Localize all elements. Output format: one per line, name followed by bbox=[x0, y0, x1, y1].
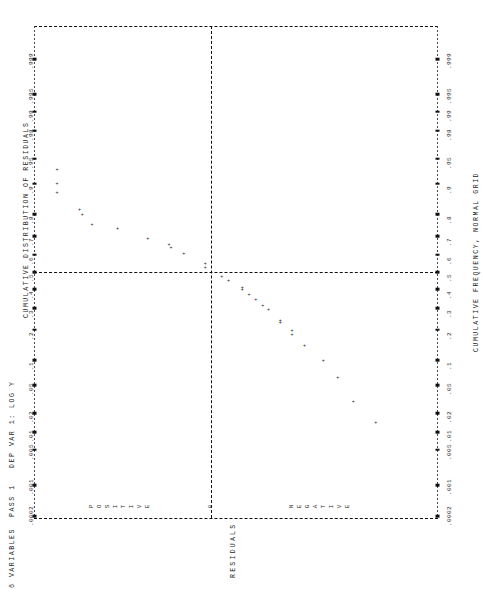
prob-tick-label-left: .3 bbox=[28, 310, 35, 318]
prob-tick-label-right: .5 bbox=[446, 274, 453, 282]
axis-label-letter: S bbox=[104, 503, 111, 510]
zero-residual-reference-line bbox=[211, 26, 212, 518]
axis-label-letter: V bbox=[136, 503, 143, 510]
axis-label-letter: E bbox=[144, 503, 151, 510]
prob-tick-label-left: .02 bbox=[28, 411, 35, 423]
prob-tick-label-right: .999 bbox=[446, 53, 453, 69]
data-point bbox=[33, 129, 36, 132]
prob-tick-label-left: .5 bbox=[28, 274, 35, 282]
prob-tick-right bbox=[436, 412, 440, 415]
axis-label-letter: I bbox=[128, 503, 135, 510]
prob-tick-label-left: .01 bbox=[28, 430, 35, 442]
data-point bbox=[352, 400, 355, 403]
prob-tick-right bbox=[436, 271, 440, 274]
prob-tick-label-left: .0002 bbox=[28, 506, 35, 526]
prob-tick-right bbox=[436, 307, 440, 310]
prob-tick-label-left: .999 bbox=[28, 53, 35, 69]
prob-tick-right bbox=[436, 253, 440, 256]
prob-tick-label-right: .01 bbox=[446, 430, 453, 442]
data-point bbox=[146, 238, 149, 241]
prob-tick-label-right: .3 bbox=[446, 310, 453, 318]
axis-label-letter: A bbox=[312, 503, 319, 510]
data-point bbox=[91, 223, 94, 226]
prob-tick-label-left: .05 bbox=[28, 383, 35, 395]
data-point bbox=[220, 276, 223, 279]
prob-tick-label-right: .8 bbox=[446, 216, 453, 224]
prob-tick-label-left: .1 bbox=[28, 362, 35, 370]
axis-label-letter: O bbox=[96, 503, 103, 510]
axis-label-letter: I bbox=[112, 503, 119, 510]
prob-tick-right bbox=[436, 515, 440, 518]
prob-tick-right bbox=[436, 384, 440, 387]
prob-tick-label-left: .8 bbox=[28, 216, 35, 224]
axis-label-negative: NEGATIVE bbox=[288, 503, 351, 510]
prob-tick-label-left: .99 bbox=[28, 110, 35, 122]
prob-tick-label-right: .7 bbox=[446, 238, 453, 246]
data-point bbox=[81, 214, 84, 217]
prob-tick-left bbox=[33, 183, 37, 186]
axis-label-letter: E bbox=[296, 503, 303, 510]
axis-label-zero: 0 bbox=[207, 503, 214, 510]
data-point bbox=[254, 299, 257, 302]
prob-tick-right bbox=[436, 183, 440, 186]
prob-tick-right bbox=[436, 93, 440, 96]
data-point bbox=[116, 227, 119, 230]
prob-tick-left bbox=[33, 307, 37, 310]
plot-border-bottom bbox=[34, 518, 438, 519]
prob-tick-label-right: .99 bbox=[446, 110, 453, 122]
axis-label-letter: I bbox=[328, 503, 335, 510]
prob-tick-label-right: .05 bbox=[446, 383, 453, 395]
data-point bbox=[170, 247, 173, 250]
data-point bbox=[248, 294, 251, 297]
prob-tick-label-right: .005 bbox=[446, 444, 453, 460]
data-point bbox=[261, 304, 264, 307]
axis-label-letter: E bbox=[344, 503, 351, 510]
data-point bbox=[322, 359, 325, 362]
data-point bbox=[279, 322, 282, 325]
prob-tick-left bbox=[33, 328, 37, 331]
prob-tick-label-right: .95 bbox=[446, 157, 453, 169]
prob-tick-label-left: .7 bbox=[28, 238, 35, 246]
prob-tick-right bbox=[436, 58, 440, 61]
prob-tick-label-left: .6 bbox=[28, 257, 35, 265]
residual-axis-title: RESIDUALS bbox=[230, 523, 237, 578]
prob-tick-label-right: .2 bbox=[446, 332, 453, 340]
data-point bbox=[290, 334, 293, 337]
header-caption: 6 VARIABLES PASS 1 DEP VAR 1: LOG Y bbox=[9, 381, 16, 588]
data-point bbox=[182, 252, 185, 255]
prob-tick-label-right: .02 bbox=[446, 411, 453, 423]
axis-label-positive: POSITIVE bbox=[88, 503, 151, 510]
prob-tick-left bbox=[33, 235, 37, 238]
plot-area: .999.995.99.98.95.9.8.7.6.5.4.3.2.1.05.0… bbox=[34, 26, 438, 518]
median-reference-line bbox=[34, 272, 438, 273]
prob-tick-label-right: .0002 bbox=[446, 506, 453, 526]
data-point bbox=[267, 309, 270, 312]
prob-tick-label-left: .005 bbox=[28, 444, 35, 460]
axis-label-letter: T bbox=[120, 503, 127, 510]
axis-label-letter: T bbox=[320, 503, 327, 510]
data-point bbox=[374, 422, 377, 425]
prob-tick-label-left: .001 bbox=[28, 479, 35, 495]
data-point bbox=[303, 344, 306, 347]
axis-label-letter: N bbox=[288, 503, 295, 510]
data-point bbox=[55, 191, 58, 194]
prob-tick-label-right: .6 bbox=[446, 257, 453, 265]
prob-tick-right bbox=[436, 110, 440, 113]
prob-tick-label-left: .2 bbox=[28, 332, 35, 340]
prob-tick-label-right: .001 bbox=[446, 479, 453, 495]
axis-label-letter: V bbox=[336, 503, 343, 510]
prob-tick-label-right: .1 bbox=[446, 362, 453, 370]
prob-tick-right bbox=[436, 213, 440, 216]
data-point bbox=[55, 182, 58, 185]
plot-border-top bbox=[34, 26, 438, 27]
prob-tick-label-right: .4 bbox=[446, 291, 453, 299]
prob-tick-label-left: .4 bbox=[28, 291, 35, 299]
prob-tick-right bbox=[436, 359, 440, 362]
data-point bbox=[336, 376, 339, 379]
plot-page: 6 VARIABLES PASS 1 DEP VAR 1: LOG Y CUMU… bbox=[0, 0, 483, 592]
prob-tick-label-right: .995 bbox=[446, 88, 453, 104]
axis-label-letter: P bbox=[88, 503, 95, 510]
data-point bbox=[204, 266, 207, 269]
prob-tick-right bbox=[436, 328, 440, 331]
data-point bbox=[55, 169, 58, 172]
